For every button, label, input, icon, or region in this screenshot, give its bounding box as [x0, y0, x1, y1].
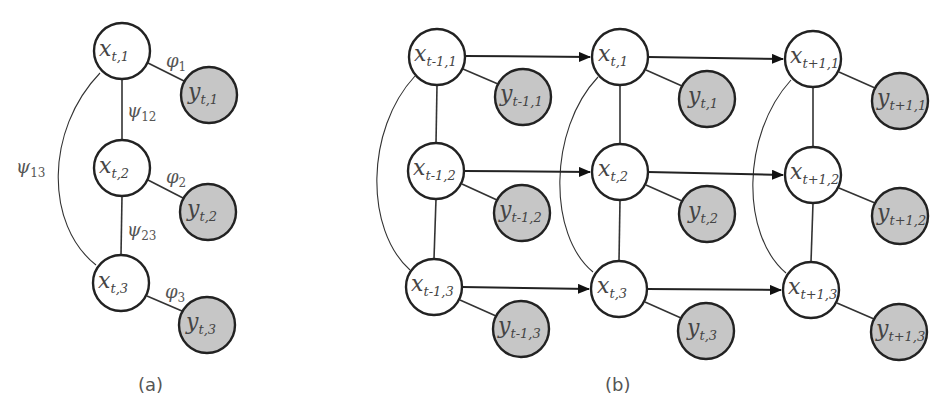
edge-tp1-x1-y1	[839, 72, 875, 88]
graphical-model-figure: xt,1 xt,2 xt,3 yt,1 yt,2 yt,3 φ1 φ2 φ3 ψ…	[0, 0, 946, 416]
edge-t-x3-y3	[645, 302, 681, 318]
arrow-t-tp1-1	[648, 57, 783, 59]
node-x-t-3: xt,3	[93, 255, 149, 311]
factor-psi-12: ψ12	[127, 100, 156, 124]
node-y-tp1-1: yt+1,1	[872, 73, 928, 129]
node-x-tp1-1: xt+1,1	[785, 31, 841, 87]
factor-psi-23: ψ23	[127, 219, 156, 243]
node-x-t-1-b: xt,1	[592, 29, 648, 85]
arrow-tm1-t-1	[465, 56, 590, 57]
factor-phi-2: φ2	[166, 166, 186, 190]
edge-tm1-x1-x2	[436, 85, 437, 143]
edge-x2-x3	[121, 196, 122, 255]
node-y-tp1-2: yt+1,2	[872, 188, 928, 244]
factor-phi-3: φ3	[165, 281, 185, 305]
node-x-t-1: xt,1	[94, 23, 150, 79]
node-y-t-2-b: yt,2	[679, 186, 735, 242]
edge-tp1-x2-x3	[811, 203, 813, 262]
edge-tm1-x1-y1	[463, 69, 498, 84]
caption-a: (a)	[138, 374, 163, 395]
node-x-tp1-3: xt+1,3	[783, 262, 839, 318]
node-y-t-1: yt,1	[181, 67, 237, 123]
node-x-tm1-3: xt-1,3	[406, 259, 462, 315]
arrow-t-tp1-2	[648, 172, 783, 175]
caption-b: (b)	[605, 374, 630, 395]
node-y-tp1-3: yt+1,3	[871, 304, 927, 360]
factor-psi-13: ψ13	[16, 156, 45, 180]
node-y-t-3: yt,3	[179, 297, 235, 353]
node-y-tm1-2: yt-1,2	[494, 185, 550, 241]
edge-tm1-x2-x3	[434, 199, 436, 259]
node-x-tp1-2: xt+1,2	[785, 147, 841, 203]
edge-tp1-x3-y3	[837, 303, 874, 319]
edge-t-x2-x3	[619, 200, 620, 261]
node-y-t-1-b: yt,1	[679, 71, 735, 127]
factor-phi-1: φ1	[166, 50, 186, 74]
node-y-t-3-b: yt,3	[678, 303, 734, 359]
arrow-tm1-t-2	[464, 171, 590, 172]
panel-a: xt,1 xt,2 xt,3 yt,1 yt,2 yt,3 φ1 φ2 φ3 ψ…	[16, 23, 237, 395]
node-x-t-2: xt,2	[94, 140, 150, 196]
arrow-tm1-t-3	[462, 287, 589, 289]
panel-b: xt-1,1 xt-1,2 xt-1,3 yt-1,1 yt-1,2 yt-1,…	[377, 29, 928, 395]
edge-tp1-x2-y2	[839, 188, 875, 203]
arrow-t-tp1-3	[647, 289, 781, 290]
node-y-tm1-3: yt-1,3	[493, 301, 549, 357]
node-x-t-3-b: xt,3	[591, 261, 647, 317]
node-y-t-2: yt,2	[180, 184, 236, 240]
edge-tm1-x3-y3	[460, 300, 496, 316]
node-x-t-2-b: xt,2	[592, 144, 648, 200]
node-x-tm1-1: xt-1,1	[409, 29, 465, 85]
edge-t-x2-y2	[646, 185, 682, 201]
edge-t-x1-y1	[646, 70, 682, 86]
node-y-tm1-1: yt-1,1	[495, 69, 551, 125]
edge-tm1-x2-y2	[462, 184, 497, 200]
node-x-tm1-2: xt-1,2	[408, 143, 464, 199]
